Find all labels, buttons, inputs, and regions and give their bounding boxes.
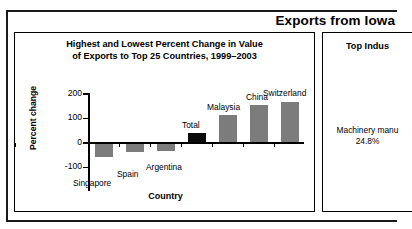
x-axis-tick-4 (212, 143, 213, 147)
bar-china[interactable] (250, 105, 268, 142)
bar-total[interactable] (188, 133, 206, 142)
bar-label-argentina: Argentina (146, 163, 182, 172)
page-title: Exports from Iowa (276, 13, 395, 28)
x-axis-tick-6 (274, 143, 275, 147)
bar-chart-plot: Percent change 200 100 0 -100 (15, 33, 316, 213)
bar-label-singapore: Singapore (73, 179, 111, 188)
page-header: Exports from Iowa (150, 10, 397, 30)
y-axis-tick-neg100 (83, 167, 88, 169)
y-axis-tick-100 (83, 118, 88, 120)
x-axis-title: Country (15, 191, 316, 201)
x-axis-tick-5 (243, 143, 244, 147)
bar-switzerland[interactable] (281, 102, 299, 143)
x-axis-baseline (88, 142, 304, 144)
bar-spain[interactable] (126, 144, 144, 152)
bar-label-switzerland: Switzerland (263, 89, 306, 98)
bar-singapore[interactable] (95, 144, 113, 157)
x-axis-tick-3 (181, 143, 182, 147)
top-industries-panel: Top Indus Machinery manu 24.8% (322, 32, 412, 212)
y-axis-label-0: 0 (48, 138, 82, 147)
top-industry-name: Machinery manu (323, 125, 412, 136)
bar-label-malaysia: Malaysia (207, 103, 240, 112)
y-axis-label-200: 200 (48, 89, 82, 98)
top-industry-entry: Machinery manu 24.8% (323, 125, 412, 147)
y-axis-label-100: 100 (48, 113, 82, 122)
top-industry-value: 24.8% (323, 136, 412, 147)
y-axis-label-neg100: -100 (48, 162, 82, 171)
x-axis-tick-2 (150, 143, 151, 147)
x-axis-tick-1 (119, 143, 120, 147)
bar-label-spain: Spain (117, 170, 138, 179)
bar-argentina[interactable] (157, 144, 175, 151)
top-industries-title: Top Indus (323, 41, 412, 51)
bar-malaysia[interactable] (219, 115, 237, 142)
bar-label-total: Total (182, 121, 200, 130)
y-axis-title: Percent change (28, 83, 38, 153)
chart-panel: Highest and Lowest Percent Change in Val… (14, 32, 315, 212)
y-axis-tick-200 (83, 93, 88, 95)
